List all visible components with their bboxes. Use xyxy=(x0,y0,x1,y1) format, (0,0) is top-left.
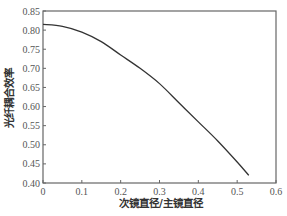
x-tick-label: 0.5 xyxy=(231,186,244,197)
x-axis-title: 次镜直径/主镜直径 xyxy=(119,197,204,209)
y-axis-title: 光纤耦合效率 xyxy=(3,67,15,129)
y-tick-label: 0.75 xyxy=(23,44,41,55)
line-chart: 0.400.450.500.550.600.650.700.750.800.85… xyxy=(0,0,287,216)
y-tick-label: 0.85 xyxy=(23,6,41,17)
y-tick-label: 0.60 xyxy=(23,101,41,112)
x-tick-label: 0.4 xyxy=(192,186,205,197)
x-tick-label: 0.3 xyxy=(153,186,166,197)
plot-border xyxy=(43,11,276,183)
y-tick-label: 0.65 xyxy=(23,82,41,93)
y-tick-label: 0.80 xyxy=(23,25,41,36)
x-tick-label: 0 xyxy=(41,186,46,197)
x-tick-label: 0.2 xyxy=(114,186,127,197)
y-tick-label: 0.50 xyxy=(23,139,41,150)
y-tick-label: 0.45 xyxy=(23,158,41,169)
x-tick-label: 0.6 xyxy=(270,186,283,197)
series-line xyxy=(43,24,249,175)
y-tick-label: 0.40 xyxy=(23,178,41,189)
y-tick-label: 0.70 xyxy=(23,63,41,74)
x-tick-label: 0.1 xyxy=(76,186,89,197)
y-tick-label: 0.55 xyxy=(23,120,41,131)
plot-frame xyxy=(43,11,276,183)
data-series xyxy=(43,24,249,175)
